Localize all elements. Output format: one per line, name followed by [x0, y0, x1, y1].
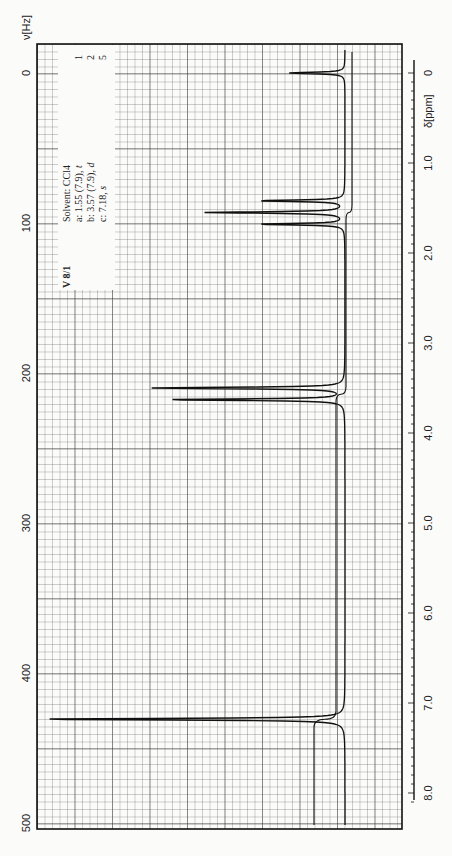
nmr-spectrum-chart: 0100200300400500 01.02.03.04.05.06.07.08…: [0, 0, 452, 856]
plot-area: [37, 44, 402, 829]
spectrum-id: V 8/1: [61, 266, 72, 288]
ppm-tick-label: 8.0: [422, 785, 434, 800]
ppm-tick-label: 6.0: [422, 605, 434, 620]
integral-label: 5: [97, 55, 108, 60]
ppm-axis-title: δ[ppm]: [422, 94, 434, 128]
ppm-tick-label: 0: [422, 70, 434, 76]
assignment-c: c: 7.18, s: [97, 186, 108, 222]
hz-tick-label: 300: [20, 514, 32, 532]
assignment-a: a: 1.55 (7.9), t: [73, 165, 85, 222]
integral-label: 2: [85, 55, 96, 60]
hz-axis: 0100200300400500: [20, 70, 32, 832]
hz-axis-title: ν[Hz]: [20, 15, 32, 40]
ppm-tick-label: 3.0: [422, 335, 434, 350]
solvent-label: Solvent: CCl4: [61, 165, 72, 222]
assignment-b: b: 3.57 (7.9), d: [85, 162, 97, 222]
hz-tick-label: 200: [20, 364, 32, 382]
ppm-tick-label: 7.0: [422, 695, 434, 710]
ppm-tick-label: 2.0: [422, 245, 434, 260]
integral-label: 1: [73, 55, 84, 60]
hz-tick-label: 500: [20, 814, 32, 832]
ppm-tick-label: 4.0: [422, 425, 434, 440]
hz-tick-label: 400: [20, 664, 32, 682]
ppm-axis: 01.02.03.04.05.06.07.08.0: [408, 60, 434, 802]
hz-tick-label: 0: [20, 70, 32, 76]
ppm-tick-label: 5.0: [422, 515, 434, 530]
ppm-tick-label: 1.0: [422, 155, 434, 170]
hz-tick-label: 100: [20, 214, 32, 232]
